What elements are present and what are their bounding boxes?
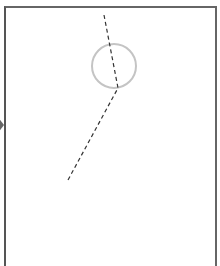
dashed-line-path[interactable] — [68, 15, 118, 180]
